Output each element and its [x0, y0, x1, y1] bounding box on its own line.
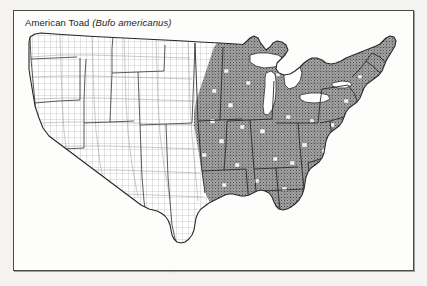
lake-erie	[300, 93, 330, 103]
us-county-distribution-map-svg	[14, 11, 414, 271]
figure-frame: American Toad (Bufo americanus)	[13, 10, 414, 271]
distribution-map	[14, 11, 414, 271]
figure-page: American Toad (Bufo americanus)	[0, 0, 427, 286]
